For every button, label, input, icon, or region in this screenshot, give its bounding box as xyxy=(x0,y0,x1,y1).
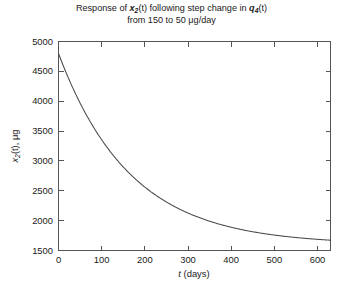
x-tick-label: 100 xyxy=(94,254,110,265)
title2-text-b: g/day xyxy=(194,15,217,25)
y-axis-label-unit: g xyxy=(9,129,20,134)
y-axis-label-mid: (t), xyxy=(9,140,20,154)
response-curve xyxy=(59,53,331,240)
y-tick-label: 4500 xyxy=(32,65,53,76)
plot-frame xyxy=(59,42,331,251)
x-tick-label: 300 xyxy=(180,254,196,265)
title2-text-a: from 150 to 50 xyxy=(127,15,188,25)
x-tick-label: 200 xyxy=(137,254,153,265)
x-axis-label: t (days) xyxy=(178,268,209,279)
title-text-a: Response of xyxy=(76,3,130,13)
y-tick-label: 4000 xyxy=(32,95,53,106)
y-tick-label: 1500 xyxy=(32,245,53,256)
y-tick-labels: 1500 2000 2500 3000 3500 4000 4500 5000 xyxy=(32,36,53,256)
figure-container: Response of x2(t) following step change … xyxy=(0,0,343,296)
title-text-c: (t) xyxy=(258,3,267,13)
y-tick-label: 3000 xyxy=(32,155,53,166)
x-tick-label: 400 xyxy=(223,254,239,265)
x-tick-label: 0 xyxy=(56,254,61,265)
y-tick-label: 2500 xyxy=(32,185,53,196)
x-tick-labels: 0 100 200 300 400 500 600 xyxy=(56,254,325,265)
y-tick-label: 5000 xyxy=(32,36,53,47)
x-tickmarks xyxy=(59,42,318,251)
y-tick-label: 3500 xyxy=(32,125,53,136)
response-chart: Response of x2(t) following step change … xyxy=(0,0,343,296)
y-tick-label: 2000 xyxy=(32,215,53,226)
chart-title-line2: from 150 to 50 μg/day xyxy=(127,15,216,25)
chart-title: Response of x2(t) following step change … xyxy=(76,3,267,25)
x-tick-label: 600 xyxy=(310,254,326,265)
chart-title-line1: Response of x2(t) following step change … xyxy=(76,3,267,14)
title-text-b: (t) following step change in xyxy=(138,3,249,13)
y-tickmarks xyxy=(59,42,331,251)
y-axis-label: x2(t), μg xyxy=(9,129,21,163)
x-tick-label: 500 xyxy=(266,254,282,265)
x-axis-label-rest: (days) xyxy=(181,268,210,279)
